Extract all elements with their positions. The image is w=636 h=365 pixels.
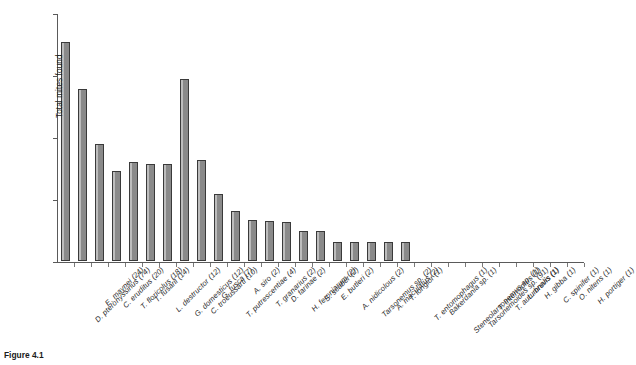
bar	[78, 89, 87, 261]
y-axis-title: Total mites found	[55, 54, 64, 118]
bar	[316, 231, 325, 261]
bar	[146, 164, 155, 261]
chart-plot-area: 110100100010 000 Total mites found	[57, 14, 584, 262]
bar	[214, 194, 223, 261]
bar	[197, 160, 206, 261]
bar	[129, 162, 138, 261]
y-tick-mark	[53, 262, 57, 263]
bar	[333, 242, 342, 261]
y-tick-mark	[53, 14, 57, 15]
bar	[95, 144, 104, 261]
bar	[401, 242, 410, 261]
x-axis-line	[57, 262, 584, 263]
bar	[112, 171, 121, 261]
bar	[299, 231, 308, 261]
y-tick-mark	[53, 138, 57, 139]
bar	[265, 221, 274, 261]
bar	[384, 242, 393, 261]
bar	[350, 242, 359, 261]
figure-caption: Figure 4.1	[4, 350, 596, 365]
y-tick-mark	[53, 200, 57, 201]
bar	[282, 222, 291, 261]
bar	[248, 220, 257, 261]
bar	[180, 79, 189, 261]
y-axis-line	[57, 14, 58, 263]
bar	[163, 164, 172, 261]
caption-figure-number: Figure 4.1	[4, 350, 44, 360]
x-tick-label: Tarsonemoides sp. (91)	[486, 266, 549, 329]
x-tick-label: D. pteronyssinus (74)	[93, 266, 151, 324]
bar	[231, 211, 240, 261]
bar	[367, 242, 376, 261]
